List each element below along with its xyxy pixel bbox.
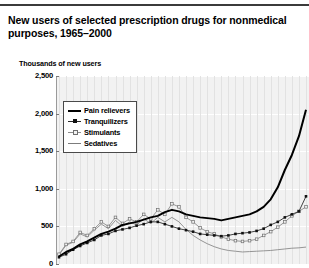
page-title: New users of selected prescription drugs… xyxy=(8,14,298,40)
data-point-marker xyxy=(206,230,209,233)
legend-item-tranquilizers: Tranquilizers xyxy=(68,116,130,127)
data-point-marker xyxy=(185,229,188,232)
data-point-marker xyxy=(255,230,258,233)
data-point-marker xyxy=(298,210,301,213)
data-point-marker xyxy=(65,243,68,246)
y-axis-line xyxy=(56,76,57,264)
data-point-marker xyxy=(276,226,279,229)
data-point-marker xyxy=(157,209,160,212)
data-point-marker xyxy=(107,233,110,236)
legend-swatch-line-icon xyxy=(68,106,81,115)
data-point-marker xyxy=(79,231,82,234)
data-point-marker xyxy=(248,239,251,242)
legend-item-pain-relievers: Pain relievers xyxy=(68,105,130,116)
y-tick-mark xyxy=(56,151,59,152)
data-point-marker xyxy=(241,240,244,243)
data-point-marker xyxy=(220,235,223,238)
data-point-marker xyxy=(185,216,188,219)
chart-legend: Pain relievers Tranquilizers Stimulants … xyxy=(63,101,137,153)
data-point-marker xyxy=(227,238,230,241)
data-point-marker xyxy=(171,225,174,228)
y-tick-mark xyxy=(56,114,59,115)
data-point-marker xyxy=(241,232,244,235)
legend-label: Tranquilizers xyxy=(84,117,128,126)
legend-label: Pain relievers xyxy=(84,106,130,115)
data-point-marker xyxy=(114,216,117,219)
data-point-marker xyxy=(284,221,287,224)
data-point-marker xyxy=(178,206,181,209)
legend-swatch-open-marker-icon xyxy=(68,128,81,137)
data-point-marker xyxy=(72,240,75,243)
y-tick-mark xyxy=(56,264,59,265)
legend-swatch-thin-line-icon xyxy=(68,139,81,148)
data-point-marker xyxy=(248,231,251,234)
y-tick-label: 1,500 xyxy=(3,146,53,155)
data-point-marker xyxy=(100,221,103,224)
data-point-marker xyxy=(107,225,110,228)
data-point-marker xyxy=(234,233,237,236)
data-point-marker xyxy=(192,230,195,233)
y-tick-labels: 2,5002,0001,5001,0005000 xyxy=(0,76,53,264)
data-point-marker xyxy=(135,224,138,227)
data-point-marker xyxy=(284,216,287,219)
data-point-marker xyxy=(142,223,145,226)
data-point-marker xyxy=(206,233,209,236)
data-point-marker xyxy=(171,203,174,206)
data-point-marker xyxy=(269,230,272,233)
data-point-marker xyxy=(227,234,230,237)
legend-swatch-marker-icon xyxy=(68,117,81,126)
y-tick-label: 1,000 xyxy=(3,184,53,193)
data-point-marker xyxy=(276,221,279,224)
data-point-marker xyxy=(149,221,152,224)
y-tick-label: 2,000 xyxy=(3,109,53,118)
header-rule xyxy=(0,4,309,6)
data-point-marker xyxy=(121,228,124,231)
data-point-marker xyxy=(199,227,202,230)
data-point-marker xyxy=(142,213,145,216)
data-point-marker xyxy=(269,224,272,227)
data-point-marker xyxy=(234,239,237,242)
y-tick-mark xyxy=(56,76,59,77)
data-point-marker xyxy=(262,227,265,230)
data-point-marker xyxy=(255,238,258,241)
y-axis-label: Thousands of new users xyxy=(19,59,101,68)
y-tick-label: 500 xyxy=(3,221,53,230)
data-point-marker xyxy=(178,227,181,230)
data-point-marker xyxy=(213,234,216,237)
y-tick-label: 2,500 xyxy=(3,71,53,80)
y-tick-mark xyxy=(56,189,59,190)
data-point-marker xyxy=(305,206,308,209)
y-tick-mark xyxy=(56,226,59,227)
legend-item-sedatives: Sedatives xyxy=(68,138,130,149)
data-point-marker xyxy=(164,223,167,226)
data-point-marker xyxy=(291,213,294,216)
data-point-marker xyxy=(86,234,89,237)
legend-label: Sedatives xyxy=(84,139,117,148)
data-point-marker xyxy=(93,227,96,230)
y-tick-label: 0 xyxy=(3,259,53,268)
legend-item-stimulants: Stimulants xyxy=(68,127,130,138)
data-point-marker xyxy=(128,218,131,221)
data-point-marker xyxy=(128,227,131,230)
legend-label: Stimulants xyxy=(84,128,120,137)
data-point-marker xyxy=(192,221,195,224)
data-point-marker xyxy=(157,221,160,224)
data-point-marker xyxy=(262,234,265,237)
data-point-marker xyxy=(199,233,202,236)
data-point-marker xyxy=(305,195,308,198)
